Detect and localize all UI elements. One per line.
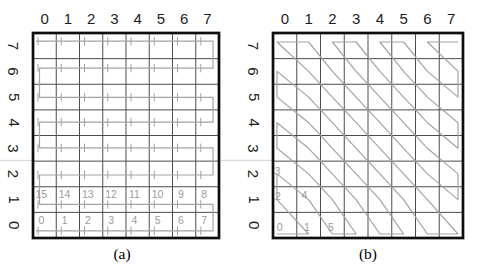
cell-number: 11 <box>129 188 140 200</box>
cell-number: 2 <box>85 214 91 226</box>
top-axis-label: 2 <box>328 10 336 27</box>
top-axis-label: 0 <box>281 10 289 27</box>
cell-number: 12 <box>105 188 117 200</box>
scan-order-figure: 01234567891011121314150123456776543210 0… <box>0 0 481 270</box>
left-axis-label: 3 <box>5 144 22 152</box>
cell-number: 14 <box>59 188 71 200</box>
top-axis-label: 1 <box>64 10 72 27</box>
scan-order-diagrams: 01234567891011121314150123456776543210 0… <box>0 0 481 270</box>
left-axis-label: 6 <box>245 67 262 75</box>
left-axis-label: 7 <box>5 42 22 50</box>
top-axis-label: 7 <box>203 10 211 27</box>
left-axis-label: 2 <box>5 170 22 178</box>
left-axis-label: 2 <box>245 170 262 178</box>
cell-number: 2 <box>275 190 281 202</box>
top-axis-label: 0 <box>40 10 48 27</box>
top-axis-label: 5 <box>399 10 407 27</box>
top-axis-label: 6 <box>423 10 431 27</box>
left-axis-label: 5 <box>246 93 263 101</box>
left-axis-label: 5 <box>6 93 23 101</box>
left-axis-label: 7 <box>245 42 262 50</box>
cell-number: 0 <box>277 221 283 233</box>
cell-number: 3 <box>274 165 280 177</box>
top-axis-label: 3 <box>110 10 118 27</box>
left-axis-label: 0 <box>6 221 23 229</box>
cell-number: 1 <box>62 214 68 226</box>
left-axis-label: 6 <box>5 67 22 75</box>
left-axis-label: 4 <box>6 119 23 127</box>
cell-number: 7 <box>201 214 207 226</box>
cell-number: 1 <box>304 221 310 233</box>
cell-number: 13 <box>82 188 94 200</box>
top-axis-label: 4 <box>133 10 141 27</box>
top-axis-label: 2 <box>87 10 95 27</box>
panel-a-grid-diagram: 01234567891011121314150123456776543210 <box>5 10 219 238</box>
left-axis-label: 3 <box>245 144 262 152</box>
caption-b: (b) <box>359 245 377 263</box>
cell-number: 0 <box>38 214 44 226</box>
cell-number: 6 <box>178 214 184 226</box>
cell-number: 3 <box>108 214 114 226</box>
cell-number: 10 <box>152 188 164 200</box>
cell-number: 5 <box>328 221 334 233</box>
top-axis-label: 5 <box>157 10 165 27</box>
top-axis-label: 7 <box>447 10 455 27</box>
left-axis-label: 4 <box>246 119 263 127</box>
cell-number: 4 <box>302 189 308 201</box>
left-axis-label: 1 <box>6 195 23 203</box>
top-axis-label: 1 <box>304 10 312 27</box>
cell-number: 8 <box>201 188 207 200</box>
cell-number: 15 <box>36 188 48 200</box>
left-axis-label: 0 <box>246 221 263 229</box>
left-axis-label: 1 <box>246 195 263 203</box>
cell-number: 4 <box>131 214 137 226</box>
panel-b-grid-diagram: 0123450123456776543210 <box>245 10 463 238</box>
cell-number: 9 <box>178 188 184 200</box>
cell-number: 5 <box>155 214 161 226</box>
caption-a: (a) <box>113 245 130 263</box>
top-axis-label: 6 <box>180 10 188 27</box>
top-axis-label: 4 <box>376 10 384 27</box>
top-axis-label: 3 <box>352 10 360 27</box>
